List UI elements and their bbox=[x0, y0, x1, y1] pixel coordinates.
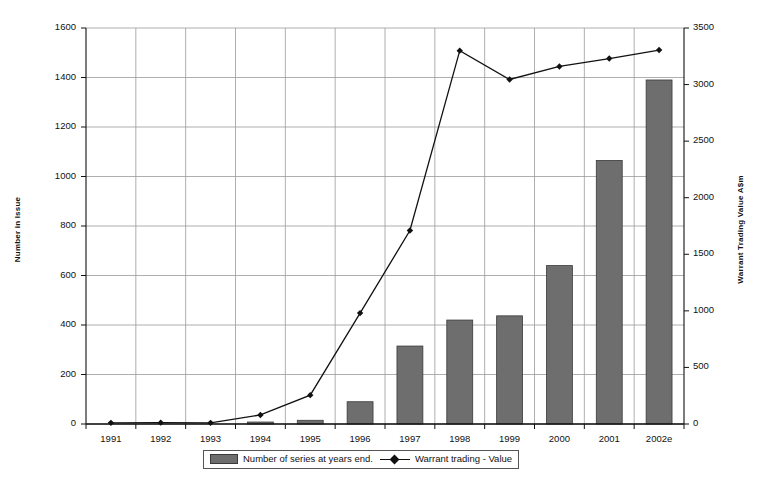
x-tick-label: 1993 bbox=[185, 433, 237, 444]
line-marker-icon bbox=[380, 455, 410, 464]
legend-label-bars: Number of series at years end. bbox=[243, 453, 373, 465]
x-tick-label: 1994 bbox=[234, 433, 286, 444]
right-tick-label: 500 bbox=[693, 360, 733, 371]
right-tick-label: 3000 bbox=[693, 78, 733, 89]
x-tick-label: 2000 bbox=[533, 433, 585, 444]
plot-area bbox=[0, 0, 765, 494]
x-tick-label: 1999 bbox=[484, 433, 536, 444]
bar-series bbox=[247, 80, 672, 424]
x-tick-label: 1995 bbox=[284, 433, 336, 444]
x-tick-label: 2002e bbox=[633, 433, 685, 444]
left-tick-label: 0 bbox=[36, 417, 76, 428]
right-tick-label: 1000 bbox=[693, 304, 733, 315]
bar-swatch-icon bbox=[210, 454, 238, 464]
x-tick-label: 2001 bbox=[583, 433, 635, 444]
x-tick-label: 1992 bbox=[135, 433, 187, 444]
right-axis-title: Warrant Trading Value A$m bbox=[736, 110, 745, 350]
legend-entry-line: Warrant trading - Value bbox=[380, 453, 512, 465]
left-tick-label: 1200 bbox=[36, 120, 76, 131]
x-tick-label: 1998 bbox=[434, 433, 486, 444]
right-tick-label: 2000 bbox=[693, 191, 733, 202]
legend-label-line: Warrant trading - Value bbox=[415, 453, 512, 465]
left-tick-label: 800 bbox=[36, 219, 76, 230]
warrants-chart: Number in Issue Warrant Trading Value A$… bbox=[0, 0, 765, 494]
x-tick-label: 1991 bbox=[85, 433, 137, 444]
left-tick-label: 200 bbox=[36, 368, 76, 379]
left-tick-label: 1600 bbox=[36, 21, 76, 32]
chart-legend: Number of series at years end. Warrant t… bbox=[203, 450, 519, 469]
left-tick-label: 1400 bbox=[36, 71, 76, 82]
left-tick-label: 600 bbox=[36, 269, 76, 280]
x-tick-label: 1997 bbox=[384, 433, 436, 444]
left-tick-label: 400 bbox=[36, 318, 76, 329]
right-tick-label: 2500 bbox=[693, 134, 733, 145]
gridlines bbox=[86, 28, 684, 424]
right-tick-label: 3500 bbox=[693, 21, 733, 32]
right-tick-label: 0 bbox=[693, 417, 733, 428]
left-tick-label: 1000 bbox=[36, 170, 76, 181]
right-tick-label: 1500 bbox=[693, 247, 733, 258]
left-axis-title: Number in Issue bbox=[13, 140, 22, 320]
x-tick-label: 1996 bbox=[334, 433, 386, 444]
legend-entry-bars: Number of series at years end. bbox=[210, 453, 373, 465]
